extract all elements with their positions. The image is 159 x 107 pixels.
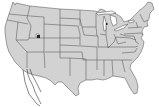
- us-states-svg: [0, 0, 159, 107]
- utah-marker: [37, 35, 40, 38]
- michigan-marker: [106, 23, 108, 25]
- us-map: [0, 0, 159, 107]
